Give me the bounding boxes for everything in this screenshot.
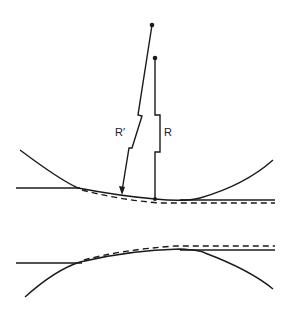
- lower-figure: [16, 246, 275, 297]
- r-radius-line: [155, 58, 160, 199]
- r-prime-arrowhead: [119, 186, 125, 195]
- r-prime-label: R′: [115, 126, 125, 138]
- lower-dashed-curve: [84, 246, 275, 260]
- r-prime-radius-line: [122, 25, 152, 191]
- upper-arc: [20, 150, 273, 200]
- curvature-diagram: R′ R: [0, 0, 293, 334]
- lower-arc: [25, 249, 273, 297]
- upper-figure: R′ R: [16, 23, 275, 203]
- r-label: R: [164, 126, 172, 138]
- upper-dashed-curve: [82, 190, 275, 203]
- r-contact-dot: [153, 197, 157, 201]
